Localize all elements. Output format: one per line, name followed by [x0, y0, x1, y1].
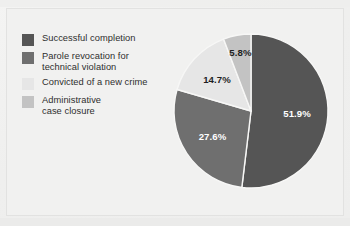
legend-label-successful-completion: Successful completion	[42, 33, 136, 44]
legend-label-convicted-new-crime: Convicted of a new crime	[42, 77, 148, 88]
pie-label-parole-revocation-for-technical-violation: 27.6%	[199, 131, 227, 142]
legend-swatch-convicted-new-crime	[22, 78, 34, 90]
legend-item-successful-completion: Successful completion	[22, 33, 162, 46]
legend-item-convicted-new-crime: Convicted of a new crime	[22, 77, 162, 90]
legend-swatch-successful-completion	[22, 34, 34, 46]
pie-label-convicted-of-a-new-crime: 14.7%	[203, 74, 231, 85]
legend-swatch-administrative-case-closure	[22, 96, 34, 108]
pie-chart: 51.9%27.6%14.7%5.8%	[173, 33, 329, 189]
legend-label-parole-revocation: Parole revocation for technical violatio…	[42, 51, 129, 72]
legend-label-administrative-case-closure: Administrative case closure	[42, 95, 101, 116]
legend-item-parole-revocation: Parole revocation for technical violatio…	[22, 51, 162, 72]
legend-swatch-parole-revocation	[22, 52, 34, 64]
pie-svg: 51.9%27.6%14.7%5.8%	[173, 33, 329, 189]
pie-chart-figure: Successful completion Parole revocation …	[0, 0, 350, 226]
pie-label-successful-completion: 51.9%	[283, 108, 311, 119]
pie-label-administrative-case-closure: 5.8%	[229, 47, 252, 58]
chart-legend: Successful completion Parole revocation …	[22, 33, 162, 121]
legend-item-administrative-case-closure: Administrative case closure	[22, 95, 162, 116]
